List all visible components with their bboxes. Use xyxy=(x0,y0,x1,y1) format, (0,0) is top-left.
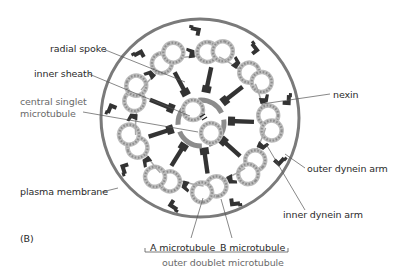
panel-label: (B) xyxy=(20,233,34,245)
label-radial-spoke: radial spoke xyxy=(50,43,106,55)
label-outer-dynein-arm: outer dynein arm xyxy=(307,163,388,175)
central-singlet-2 xyxy=(201,123,221,143)
central-apparatus xyxy=(178,100,224,146)
label-outer-doublet: outer doublet microtubule xyxy=(162,257,284,269)
label-inner-dynein-arm: inner dynein arm xyxy=(283,209,363,221)
outer-dynein-arm xyxy=(188,25,202,36)
outer-dynein-arm xyxy=(246,40,260,55)
label-inner-sheath: inner sheath xyxy=(34,68,93,80)
radial-spoke xyxy=(168,141,189,168)
radial-spoke xyxy=(171,70,191,97)
label-a-microtubule: A microtubule xyxy=(150,242,215,254)
outer-dynein-arm xyxy=(283,93,292,105)
label-b-microtubule: B microtubule xyxy=(220,242,285,254)
outer-dynein-arm xyxy=(104,103,117,117)
label-central-singlet-1: central singlet xyxy=(20,96,87,108)
axoneme-diagram xyxy=(0,0,397,274)
outer-dynein-arm xyxy=(229,197,242,208)
radial-spoke xyxy=(147,124,175,141)
label-nexin: nexin xyxy=(333,89,358,101)
label-central-singlet-2: microtubule xyxy=(20,108,76,120)
radial-spoke xyxy=(219,83,245,106)
outer-dynein-arm xyxy=(119,162,131,176)
outer-dynein-arm xyxy=(131,48,146,62)
radial-spoke xyxy=(199,147,212,174)
radial-spoke xyxy=(228,116,254,126)
label-plasma-membrane: plasma membrane xyxy=(20,186,108,198)
radial-spoke xyxy=(201,66,215,93)
